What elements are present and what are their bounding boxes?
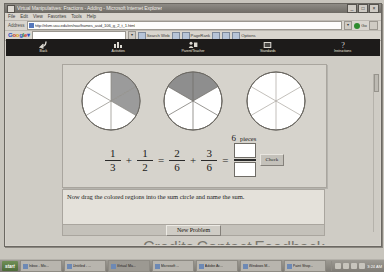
answer-denominator-input[interactable] — [234, 162, 256, 177]
search-web-label: Search Web — [147, 33, 170, 38]
menu-item-tools[interactable]: Tools — [71, 13, 82, 20]
instruction-panel: Now drag the colored regions into the su… — [62, 189, 325, 225]
taskbar-item[interactable]: Windows M... — [240, 260, 282, 272]
fraction-term-1: 1 3 — [105, 148, 121, 173]
nav-label-instructions: Instructions — [334, 49, 351, 54]
paint-icon — [287, 264, 292, 269]
taskbar-item-label: Microsoft ... — [161, 264, 180, 268]
nav-item-instructions[interactable]: ? Instructions — [305, 39, 380, 56]
menu-item-favorites[interactable]: Favorites — [48, 13, 67, 20]
window-title-bar: Virtual Manipulatives: Fractions - Addin… — [5, 4, 381, 13]
footer-credits-link[interactable]: Credits — [143, 239, 194, 245]
menu-item-view[interactable]: View — [33, 13, 43, 20]
pieces-label: 6 pieces — [232, 127, 257, 145]
sum-circle[interactable] — [245, 70, 309, 134]
menu-item-edit[interactable]: Edit — [20, 13, 28, 20]
address-dropdown-icon[interactable]: ▾ — [344, 21, 352, 30]
start-button[interactable]: start — [2, 261, 18, 271]
shield-icon[interactable] — [351, 263, 357, 269]
screen: Virtual Manipulatives: Fractions - Addin… — [0, 0, 384, 272]
taskbar-item[interactable]: Paint Shop... — [284, 260, 326, 272]
pieces-count: 6 — [232, 133, 237, 143]
taskbar-item[interactable]: Inbox - Mic... — [20, 260, 62, 272]
nav-item-back[interactable]: Back — [6, 39, 81, 56]
media-icon — [243, 264, 248, 269]
check-button[interactable]: Check — [260, 154, 285, 166]
fraction-2-numerator: 1 — [142, 148, 148, 159]
activities-icon — [113, 41, 123, 49]
taskbar-item[interactable]: Adobe Ac... — [196, 260, 238, 272]
controls-bar: New Problem — [62, 225, 325, 236]
go-button[interactable]: Go — [354, 23, 367, 29]
answer-group: 6 pieces Check — [234, 143, 285, 177]
pagerank-label: PageRank — [191, 33, 211, 38]
links-button[interactable] — [369, 21, 378, 30]
nav-label-activities: Activities — [112, 49, 125, 54]
footer-feedback-link[interactable]: Feedback — [254, 239, 324, 245]
address-bar: Address http://nlvm.usu.edu/en/nav/frame… — [5, 21, 381, 31]
nav-label-parent-teacher: Parent/Teacher — [182, 49, 205, 54]
new-problem-button[interactable]: New Problem — [166, 225, 221, 236]
nav-item-standards[interactable]: Standards — [230, 39, 305, 56]
circles-row — [63, 69, 326, 135]
second-addend-circle[interactable] — [162, 70, 226, 134]
menu-bar: File Edit View Favorites Tools Help — [5, 13, 381, 21]
fraction-applet: 1 3 + 1 2 = 2 — [62, 64, 327, 188]
taskbar-item[interactable]: Untitled - ... — [64, 260, 106, 272]
address-url-text: http://nlvm.usu.edu/en/nav/frames_asid_1… — [35, 23, 136, 28]
address-label: Address — [8, 23, 25, 28]
clock[interactable]: 3:24 AM — [367, 264, 382, 269]
browser-viewport: Back Activities Parent/Teacher — [6, 39, 380, 245]
internet-explorer-window: Virtual Manipulatives: Fractions - Addin… — [4, 3, 382, 247]
answer-fraction-bar — [234, 159, 256, 161]
question-mark-icon: ? — [339, 41, 347, 49]
options-label: Options — [241, 33, 255, 38]
back-arrow-icon — [39, 41, 48, 49]
fraction-3-numerator: 2 — [174, 148, 180, 159]
go-icon — [354, 23, 360, 29]
taskbar-item-label: Paint Shop... — [293, 264, 314, 268]
operator-equals-1: = — [158, 155, 164, 166]
network-icon[interactable] — [343, 263, 349, 269]
mail-icon — [23, 264, 28, 269]
vertical-scrollbar[interactable] — [373, 74, 379, 232]
window-title: Virtual Manipulatives: Fractions - Addin… — [17, 4, 162, 13]
site-navigation-bar: Back Activities Parent/Teacher — [6, 39, 380, 56]
answer-numerator-input[interactable] — [234, 143, 256, 158]
scrollbar-thumb[interactable] — [374, 74, 379, 92]
volume-icon[interactable] — [335, 263, 341, 269]
operator-plus-2: + — [190, 155, 196, 166]
pdf-icon — [199, 264, 204, 269]
taskbar-item-label: Inbox - Mic... — [29, 264, 50, 268]
maximize-button[interactable]: □ — [358, 4, 368, 13]
taskbar-item-label: Virtual Ma... — [117, 264, 136, 268]
nav-item-activities[interactable]: Activities — [81, 39, 156, 56]
taskbar-item[interactable]: Microsoft ... — [152, 260, 194, 272]
address-input[interactable]: http://nlvm.usu.edu/en/nav/frames_asid_1… — [27, 21, 343, 30]
taskbar-item-active[interactable]: Virtual Ma... — [108, 260, 150, 272]
close-button[interactable]: × — [369, 4, 379, 13]
taskbar-tasks: Inbox - Mic... Untitled - ... Virtual Ma… — [20, 260, 330, 272]
equation-row: 1 3 + 1 2 = 2 — [63, 137, 326, 183]
menu-item-file[interactable]: File — [8, 13, 15, 20]
page-content: 1 3 + 1 2 = 2 — [6, 56, 380, 245]
taskbar-item-label: Untitled - ... — [73, 264, 91, 268]
fraction-4-denominator: 6 — [207, 162, 213, 173]
excel-icon — [155, 264, 160, 269]
doc-icon — [67, 264, 72, 269]
minimize-button[interactable]: _ — [347, 4, 357, 13]
first-addend-circle[interactable] — [80, 70, 144, 134]
fraction-term-2: 1 2 — [137, 148, 153, 173]
system-tray: 3:24 AM — [331, 261, 382, 271]
fraction-4-numerator: 3 — [207, 148, 213, 159]
menu-item-help[interactable]: Help — [87, 13, 96, 20]
parent-teacher-icon — [188, 41, 198, 49]
taskbar-item-label: Windows M... — [249, 264, 271, 268]
windows-taskbar: start Inbox - Mic... Untitled - ... Virt… — [0, 259, 384, 272]
nav-label-back: Back — [40, 49, 48, 54]
update-icon[interactable] — [359, 263, 365, 269]
nav-item-parent-teacher[interactable]: Parent/Teacher — [156, 39, 231, 56]
taskbar-item-label: Adobe Ac... — [205, 264, 223, 268]
footer-contact-link[interactable]: Contact — [197, 239, 252, 245]
page-footer: © 2023 Utah State University. All Rights… — [62, 239, 325, 245]
